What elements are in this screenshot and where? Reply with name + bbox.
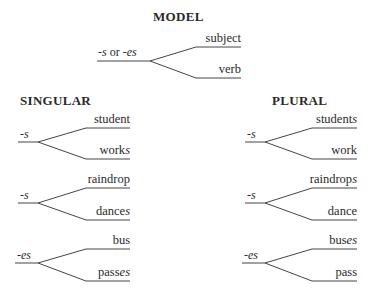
singular-bottom-2: dances bbox=[96, 204, 130, 219]
singular-bottom-1: works bbox=[99, 143, 130, 158]
plural-suffix-3: -es bbox=[244, 248, 258, 263]
model-suffix: -s or -es bbox=[98, 45, 137, 60]
suffix-or: or bbox=[107, 45, 123, 59]
model-heading: MODEL bbox=[153, 9, 204, 25]
singular-top-2: raindrop bbox=[88, 172, 130, 187]
plural-top-2: raindrops bbox=[310, 172, 357, 187]
plural-bottom-2: dance bbox=[328, 204, 357, 219]
singular-top-3: bus bbox=[113, 233, 130, 248]
singular-bottom-3: passes bbox=[98, 265, 130, 280]
plural-suffix-2: -s bbox=[247, 188, 256, 203]
plural-bottom-1: work bbox=[331, 143, 357, 158]
model-verb: verb bbox=[219, 62, 241, 77]
singular-top-1: student bbox=[94, 112, 130, 127]
plural-bottom-3: pass bbox=[335, 265, 357, 280]
plural-heading: PLURAL bbox=[272, 93, 327, 109]
singular-suffix-3: -es bbox=[17, 248, 31, 263]
singular-heading: SINGULAR bbox=[20, 93, 91, 109]
model-subject: subject bbox=[206, 31, 241, 46]
plural-suffix-1: -s bbox=[247, 127, 256, 142]
singular-suffix-2: -s bbox=[20, 188, 29, 203]
diagram-lines bbox=[0, 0, 378, 302]
suffix-s: -s bbox=[98, 45, 107, 59]
singular-suffix-1: -s bbox=[20, 127, 29, 142]
suffix-es: -es bbox=[123, 45, 137, 59]
plural-top-3: buses bbox=[329, 233, 357, 248]
plural-top-1: students bbox=[316, 112, 357, 127]
